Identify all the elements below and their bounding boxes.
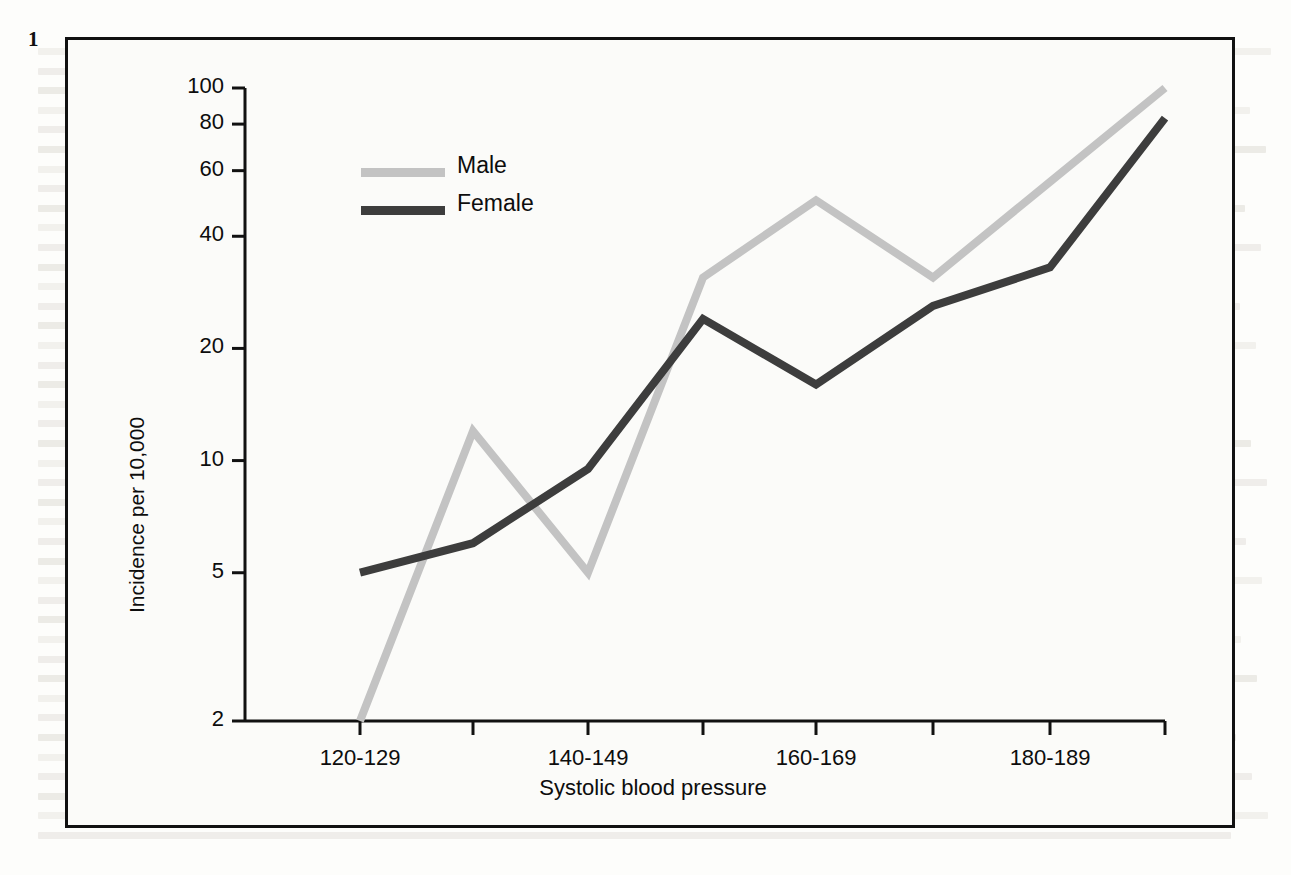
- chart-svg: [68, 40, 1238, 831]
- y-axis-tick-label: 20: [150, 333, 224, 359]
- y-axis-tick-label: 10: [150, 446, 224, 472]
- series-line-male: [360, 88, 1165, 721]
- x-axis-title: Systolic blood pressure: [68, 775, 1238, 801]
- y-axis-tick-label: 2: [150, 706, 224, 732]
- figure-box: Incidence per 10,000 Systolic blood pres…: [65, 37, 1235, 828]
- y-axis-title: Incidence per 10,000: [125, 417, 149, 613]
- legend-swatch-male: [361, 168, 445, 177]
- figure-number: 1: [28, 27, 39, 52]
- y-axis-tick-label: 80: [150, 109, 224, 135]
- legend-swatch-female: [361, 206, 445, 215]
- y-axis-tick-label: 40: [150, 221, 224, 247]
- x-axis-tick-label: 120-129: [300, 745, 420, 771]
- y-axis-tick-label: 5: [150, 558, 224, 584]
- legend-label-female: Female: [457, 190, 534, 217]
- x-axis-tick-label: 160-169: [756, 745, 876, 771]
- x-axis-tick-label: 140-149: [528, 745, 648, 771]
- legend-label-male: Male: [457, 152, 507, 179]
- chart-plot-area: Incidence per 10,000 Systolic blood pres…: [68, 40, 1238, 831]
- watermark-line: [38, 832, 1231, 839]
- x-axis-tick-label: 180-189: [990, 745, 1110, 771]
- y-axis-tick-label: 60: [150, 156, 224, 182]
- y-axis-tick-label: 100: [150, 73, 224, 99]
